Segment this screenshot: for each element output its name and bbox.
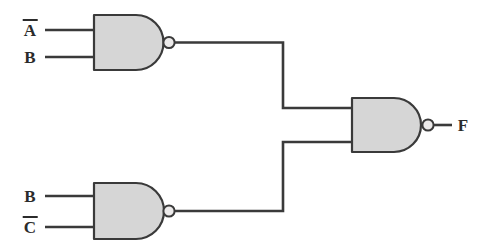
wire-gate1-to-gate3 [175, 43, 352, 109]
output-label-f: F [458, 117, 469, 134]
nand-gate-1-body [94, 15, 164, 70]
input-label-a-not: A [24, 21, 37, 39]
logic-circuit-diagram: A B B C F [0, 0, 503, 249]
nand-gate-3-inversion-bubble [422, 119, 433, 130]
input-label-b-1: B [24, 49, 36, 66]
nand-gate-2-inversion-bubble [163, 205, 174, 216]
input-label-b-2: B [24, 188, 36, 205]
nand-gate-3-body [352, 98, 421, 152]
nand-gate-2-body [94, 183, 164, 239]
wire-gate2-to-gate3 [175, 142, 352, 211]
nand-gate-1-inversion-bubble [163, 37, 174, 48]
circuit-svg [0, 0, 503, 249]
input-label-c-not: C [24, 218, 37, 236]
